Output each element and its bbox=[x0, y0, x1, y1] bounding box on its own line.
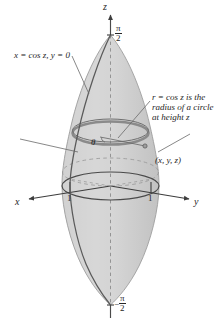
y-unit-tick-label: 1 bbox=[148, 193, 153, 203]
x-unit-tick-label: 1 bbox=[67, 193, 72, 203]
radius-annotation-line1: r = cos z is the bbox=[152, 92, 205, 102]
point-xyz-marker bbox=[143, 144, 147, 148]
radius-annotation: r = cos z is the radius of a circle at h… bbox=[152, 92, 221, 122]
curve-label-leader bbox=[72, 56, 89, 94]
y-axis-label: y bbox=[194, 196, 198, 207]
generating-curve-label: x = cos z, y = 0 bbox=[14, 50, 70, 60]
radius-annotation-line2: radius of a circle bbox=[152, 102, 213, 112]
point-xyz-label: (x, y, z) bbox=[155, 155, 181, 165]
radius-annotation-line3: at height z bbox=[152, 112, 190, 122]
x-axis-label: x bbox=[15, 196, 19, 207]
z-top-denominator: 2 bbox=[115, 34, 122, 43]
surface-of-revolution-diagram bbox=[0, 0, 221, 318]
z-bottom-denominator: 2 bbox=[119, 304, 126, 313]
z-bottom-value-label: − π 2 bbox=[114, 294, 126, 313]
theta-label: θ bbox=[91, 137, 95, 147]
point-label-leader bbox=[158, 134, 190, 152]
z-axis-label: z bbox=[103, 1, 107, 12]
z-top-value-label: π 2 bbox=[115, 24, 122, 43]
